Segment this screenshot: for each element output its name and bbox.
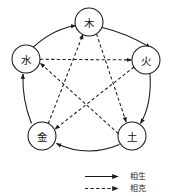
node-earth[interactable]: 土 bbox=[118, 122, 146, 150]
wuxing-diagram: 木 火 土 金 水 相生 bbox=[0, 0, 173, 196]
ke-edge-wood-earth bbox=[97, 34, 127, 122]
sheng-edge-fire-earth bbox=[141, 74, 151, 124]
node-metal[interactable]: 金 bbox=[28, 122, 56, 150]
wuxing-canvas: 木 火 土 金 水 相生 bbox=[0, 0, 173, 196]
node-metal-label: 金 bbox=[37, 131, 48, 143]
legend-item-sheng: 相生 bbox=[85, 171, 146, 181]
legend: 相生 相克 bbox=[85, 171, 146, 193]
legend-ke-label: 相克 bbox=[130, 183, 146, 193]
sheng-edge-wood-fire bbox=[102, 28, 150, 48]
ke-edge-earth-water bbox=[40, 63, 118, 133]
node-wood-label: 木 bbox=[84, 17, 95, 29]
node-wood[interactable]: 木 bbox=[75, 8, 103, 36]
sheng-edge-water-wood bbox=[34, 26, 76, 48]
ke-edge-metal-wood bbox=[48, 34, 83, 123]
node-earth-label: 土 bbox=[127, 131, 137, 143]
node-water[interactable]: 水 bbox=[12, 45, 40, 73]
ke-edge-water-fire bbox=[40, 59, 132, 60]
legend-sheng-label: 相生 bbox=[130, 171, 146, 181]
node-fire[interactable]: 火 bbox=[132, 46, 160, 74]
node-fire-label: 火 bbox=[141, 55, 152, 67]
legend-item-ke: 相克 bbox=[85, 183, 146, 193]
node-group: 木 火 土 金 水 bbox=[12, 8, 160, 150]
sheng-edge-earth-metal bbox=[57, 144, 120, 152]
ke-edge-group bbox=[40, 34, 134, 134]
node-water-label: 水 bbox=[21, 54, 32, 66]
sheng-edge-metal-water bbox=[23, 74, 32, 124]
